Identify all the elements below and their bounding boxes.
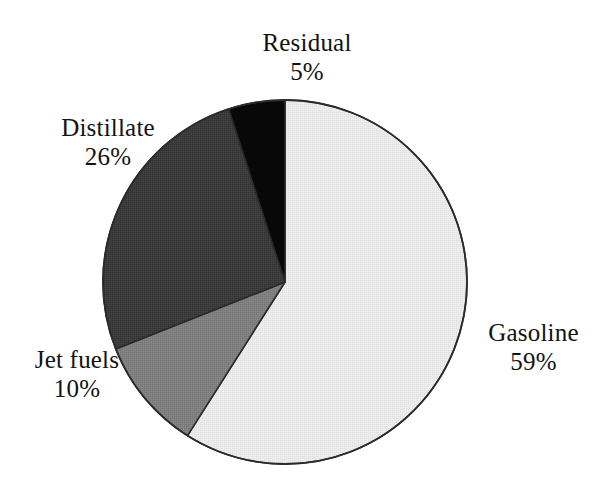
pie-label-distillate-category: Distillate <box>18 113 198 142</box>
pie-label-gasoline-value: 59% <box>468 347 599 376</box>
pie-chart: Residual 5% Distillate 26% Jet fuels 10%… <box>0 0 599 497</box>
pie-label-distillate: Distillate 26% <box>18 113 198 171</box>
pie-label-gasoline: Gasoline 59% <box>468 318 599 376</box>
pie-label-residual-value: 5% <box>222 57 392 86</box>
pie-label-residual: Residual 5% <box>222 28 392 86</box>
pie-label-distillate-value: 26% <box>18 142 198 171</box>
pie-label-residual-category: Residual <box>222 28 392 57</box>
pie-label-gasoline-category: Gasoline <box>468 318 599 347</box>
pie-label-jet-fuels-value: 10% <box>2 374 152 403</box>
pie-label-jet-fuels: Jet fuels 10% <box>2 345 152 403</box>
pie-label-jet-fuels-category: Jet fuels <box>2 345 152 374</box>
